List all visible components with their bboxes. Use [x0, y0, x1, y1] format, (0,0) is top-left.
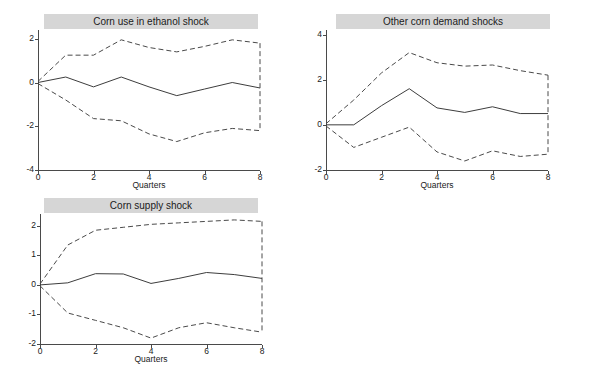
series-canvas: [0, 0, 597, 390]
confidence-band-line: [40, 286, 262, 338]
impulse-response-line: [40, 273, 262, 285]
